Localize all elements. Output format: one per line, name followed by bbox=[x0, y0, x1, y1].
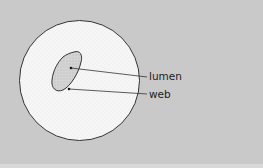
cell-diagram bbox=[0, 0, 263, 168]
web-label: web bbox=[149, 89, 171, 100]
cell-wall bbox=[20, 21, 140, 141]
lumen-label: lumen bbox=[149, 71, 182, 82]
